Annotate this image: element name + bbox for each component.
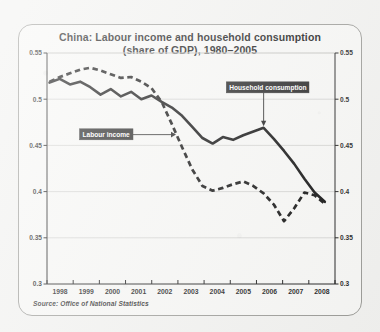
y-tick-label-right: 0.5 — [340, 96, 349, 103]
y-axis-left: 0.550.50.450.40.350.3 — [29, 49, 47, 287]
y-tick-label-right: 0.55 — [340, 49, 353, 56]
x-tick-label: 2001 — [131, 288, 146, 295]
chart-figure-card: China: Labour income and household consu… — [18, 24, 362, 316]
x-tick-label: 2002 — [157, 288, 172, 295]
line-chart-plot: 0.550.50.450.40.350.3 0.550.50.450.40.35… — [19, 25, 363, 317]
series-line-solid — [50, 79, 325, 202]
y-axis-right: 0.550.50.450.40.350.3 — [335, 49, 353, 287]
x-tick-label: 2004 — [210, 288, 225, 295]
x-axis: 1998199920002001200220032004200520062007… — [47, 280, 335, 295]
x-tick-label: 1999 — [79, 288, 94, 295]
y-tick-label-right: 0.35 — [340, 234, 353, 241]
y-tick-label-right: 0.45 — [340, 142, 353, 149]
series-label-arrowhead — [261, 121, 266, 127]
y-tick-label-left: 0.35 — [29, 234, 42, 241]
source-note: Source: Office of National Statistics — [33, 300, 149, 307]
y-tick-label-left: 0.45 — [29, 142, 42, 149]
y-tick-label-right: 0.3 — [340, 280, 349, 287]
x-tick-label: 1998 — [53, 288, 68, 295]
y-tick-label-left: 0.4 — [33, 188, 42, 195]
y-tick-label-left: 0.3 — [33, 280, 42, 287]
y-tick-label-right: 0.4 — [340, 188, 349, 195]
x-tick-label: 2006 — [262, 288, 277, 295]
x-tick-label: 2005 — [236, 288, 251, 295]
grid-lines — [47, 53, 335, 238]
y-tick-label-left: 0.5 — [33, 96, 42, 103]
x-tick-label: 2003 — [183, 288, 198, 295]
x-tick-label: 2007 — [288, 288, 303, 295]
series-label-text: Household consumption — [229, 84, 306, 92]
series-label-text: Labour income — [83, 131, 131, 138]
y-tick-label-left: 0.55 — [29, 49, 42, 56]
x-tick-label: 2008 — [314, 288, 329, 295]
x-tick-label: 2000 — [105, 288, 120, 295]
